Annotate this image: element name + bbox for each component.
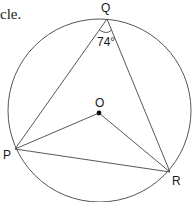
circle-diagram: Q 74° O P R <box>0 0 192 202</box>
label-r: R <box>172 174 181 188</box>
label-q: Q <box>101 1 110 15</box>
label-o: O <box>95 96 104 110</box>
center-point-o <box>97 111 102 116</box>
angle-arc-q <box>100 30 112 33</box>
label-p: P <box>3 148 11 162</box>
angle-label: 74° <box>97 35 115 49</box>
